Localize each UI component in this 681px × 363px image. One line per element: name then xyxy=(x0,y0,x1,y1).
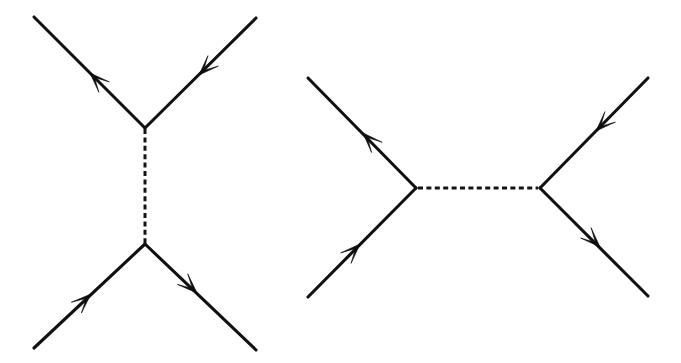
diagram-canvas xyxy=(0,0,681,363)
figure-background xyxy=(0,0,681,363)
feynman-diagram-figure xyxy=(0,0,681,363)
